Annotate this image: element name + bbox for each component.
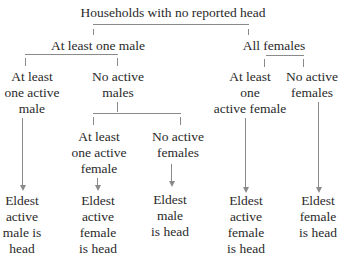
female-connector-line <box>266 55 304 56</box>
arrow-down-icon <box>20 185 26 191</box>
arrow-line-1 <box>22 118 23 186</box>
root-node: Households with no reported head <box>80 5 265 21</box>
sub-drop-left <box>93 117 94 125</box>
arrow-line-5 <box>318 102 319 188</box>
root-drop-right <box>248 29 249 35</box>
arrow-line-3 <box>171 164 172 182</box>
sub-drop-right <box>180 117 181 125</box>
node-no-active-females-sub: No active females <box>152 129 204 161</box>
root-connector-line <box>93 24 249 25</box>
male-connector-line <box>25 54 118 55</box>
outcome-eldest-female: Eldest female is head <box>299 193 337 241</box>
female-drop-right <box>303 59 304 67</box>
arrow-down-icon <box>95 185 101 191</box>
female-drop-left <box>264 59 265 67</box>
node-at-least-one-active-male: At least one active male <box>4 69 59 117</box>
outcome-eldest-active-female-1: Eldest active female is head <box>79 193 117 257</box>
node-at-least-one-active-female-top: At least one active female <box>214 69 286 117</box>
no-active-males-drop <box>117 102 118 112</box>
root-label: Households with no reported head <box>80 5 265 20</box>
outcome-eldest-active-female-2: Eldest active female is head <box>227 193 265 257</box>
node-at-least-one-active-female-sub: At least one active female <box>71 129 126 177</box>
arrow-line-4 <box>245 118 246 188</box>
node-all-females: All females <box>243 38 306 54</box>
arrow-down-icon <box>169 181 175 187</box>
node-no-active-females-top: No active females <box>286 69 338 101</box>
male-drop-left <box>25 58 26 66</box>
outcome-eldest-active-male: Eldest active male is head <box>3 193 42 257</box>
node-at-least-one-male: At least one male <box>51 38 145 54</box>
outcome-eldest-male: Eldest male is head <box>151 192 189 240</box>
no-active-males-connector-line <box>93 113 181 114</box>
node-no-active-males: No active males <box>92 69 144 101</box>
root-drop-left <box>93 29 94 35</box>
male-drop-right <box>117 58 118 66</box>
